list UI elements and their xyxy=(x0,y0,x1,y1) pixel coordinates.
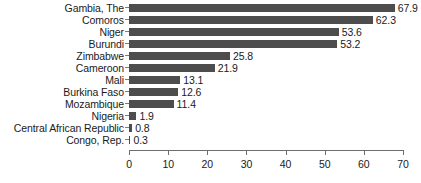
x-axis-tick-label: 10 xyxy=(153,157,183,171)
x-axis-tick-label: 70 xyxy=(388,157,418,171)
x-axis-tick xyxy=(129,151,130,155)
category-label: Congo, Rep. xyxy=(0,134,124,146)
bar xyxy=(129,4,395,12)
bar-value-label: 21.9 xyxy=(218,62,238,74)
horizontal-bar-chart: Gambia, The67.9Comoros62.3Niger53.6Burun… xyxy=(0,0,421,183)
chart-row: Central African Republic0.8 xyxy=(0,122,421,134)
x-axis-tick xyxy=(325,151,326,155)
category-label: Comoros xyxy=(0,14,124,26)
category-label: Burkina Faso xyxy=(0,86,124,98)
bar-value-label: 53.6 xyxy=(342,26,362,38)
x-axis-tick-label: 60 xyxy=(349,157,379,171)
category-label: Zimbabwe xyxy=(0,50,124,62)
bar-value-label: 62.3 xyxy=(376,14,396,26)
chart-row: Burundi53.2 xyxy=(0,38,421,50)
bar xyxy=(129,76,180,84)
bar-value-label: 0.3 xyxy=(133,134,147,146)
chart-row: Mozambique11.4 xyxy=(0,98,421,110)
chart-row: Comoros62.3 xyxy=(0,14,421,26)
chart-row: Cameroon21.9 xyxy=(0,62,421,74)
x-axis-tick xyxy=(168,151,169,155)
x-axis-tick xyxy=(246,151,247,155)
chart-plot-area: Gambia, The67.9Comoros62.3Niger53.6Burun… xyxy=(0,0,421,146)
x-axis-tick xyxy=(403,151,404,155)
bar xyxy=(129,28,339,36)
bar xyxy=(129,16,373,24)
x-axis-tick xyxy=(364,151,365,155)
category-label: Gambia, The xyxy=(0,2,124,14)
category-label: Central African Republic xyxy=(0,122,124,134)
category-label: Mozambique xyxy=(0,98,124,110)
x-axis-tick-label: 20 xyxy=(192,157,222,171)
bar-value-label: 25.8 xyxy=(233,50,253,62)
x-axis-tick xyxy=(207,151,208,155)
bar-value-label: 67.9 xyxy=(398,2,418,14)
x-axis-tick-label: 40 xyxy=(271,157,301,171)
category-label: Burundi xyxy=(0,38,124,50)
bar-value-label: 12.6 xyxy=(181,86,201,98)
chart-row: Gambia, The67.9 xyxy=(0,2,421,14)
bar-value-label: 1.9 xyxy=(139,110,153,122)
chart-row: Zimbabwe25.8 xyxy=(0,50,421,62)
category-label: Mali xyxy=(0,74,124,86)
bar-value-label: 13.1 xyxy=(183,74,203,86)
bar xyxy=(129,136,130,144)
bar xyxy=(129,112,136,120)
bar-value-label: 53.2 xyxy=(340,38,360,50)
bar xyxy=(129,124,132,132)
bar-value-label: 11.4 xyxy=(177,98,196,110)
x-axis-tick-label: 50 xyxy=(310,157,340,171)
x-axis-tick-label: 0 xyxy=(114,157,144,171)
chart-row: Mali13.1 xyxy=(0,74,421,86)
chart-row: Nigeria1.9 xyxy=(0,110,421,122)
category-label: Nigeria xyxy=(0,110,124,122)
category-label: Niger xyxy=(0,26,124,38)
bar xyxy=(129,64,215,72)
x-axis-tick-label: 30 xyxy=(231,157,261,171)
bar xyxy=(129,88,178,96)
bar xyxy=(129,40,337,48)
category-label: Cameroon xyxy=(0,62,124,74)
x-axis-line xyxy=(129,150,404,151)
bar-value-label: 0.8 xyxy=(135,122,149,134)
chart-row: Niger53.6 xyxy=(0,26,421,38)
x-axis-tick xyxy=(286,151,287,155)
bar xyxy=(129,100,174,108)
chart-row: Congo, Rep.0.3 xyxy=(0,134,421,146)
bar xyxy=(129,52,230,60)
chart-row: Burkina Faso12.6 xyxy=(0,86,421,98)
